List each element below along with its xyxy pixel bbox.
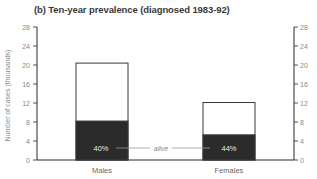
left-tick-label: 20 [22, 62, 30, 69]
category-label: Females [215, 166, 244, 175]
y-axis-label: Number of cases (thousands) [4, 50, 12, 142]
alive-label: alive [154, 145, 169, 152]
bar-alive-males [76, 121, 128, 160]
percent-alive-label: 44% [221, 144, 236, 153]
right-tick-label: 24 [300, 43, 308, 50]
left-tick-label: 12 [22, 100, 30, 107]
category-label: Males [92, 166, 112, 175]
right-tick-label: 0 [300, 157, 304, 164]
percent-alive-label: 40% [93, 144, 108, 153]
right-tick-label: 16 [300, 81, 308, 88]
right-tick-label: 8 [300, 119, 304, 126]
right-tick-label: 28 [300, 24, 308, 31]
left-tick-label: 16 [22, 81, 30, 88]
left-tick-label: 28 [22, 24, 30, 31]
bar-chart: 00448812121616202024242828Number of case… [0, 0, 317, 179]
right-tick-label: 12 [300, 100, 308, 107]
right-tick-label: 4 [300, 138, 304, 145]
right-tick-label: 20 [300, 62, 308, 69]
left-tick-label: 4 [26, 138, 30, 145]
left-tick-label: 0 [26, 157, 30, 164]
left-tick-label: 8 [26, 119, 30, 126]
left-tick-label: 24 [22, 43, 30, 50]
